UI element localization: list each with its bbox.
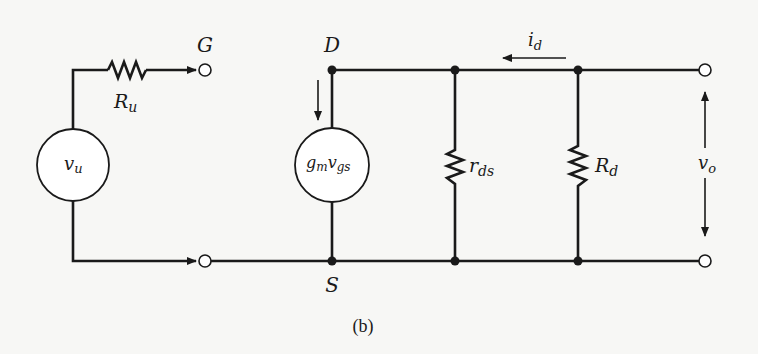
node-drain	[328, 66, 337, 75]
label-id: id	[528, 29, 542, 53]
figure-caption: (b)	[353, 316, 374, 337]
gate-terminal	[199, 64, 211, 76]
label-gate: G	[197, 33, 213, 57]
label-ru: Ru	[113, 90, 137, 115]
node-rds-bottom	[451, 257, 460, 266]
wire-rd	[570, 70, 586, 261]
node-rd-top	[574, 66, 583, 75]
source-input-terminal	[199, 255, 211, 267]
output-terminal-top	[699, 64, 711, 76]
wire-input-left-bottom	[73, 201, 196, 261]
circuit-diagram: G D S Ru vu gmvgs rds Rd id vo (b)	[0, 0, 758, 354]
resistor-ru-icon	[108, 62, 146, 78]
wire-rds	[447, 70, 463, 261]
label-drain: D	[323, 33, 340, 57]
output-terminal-bottom	[699, 255, 711, 267]
label-source: S	[325, 273, 339, 297]
label-vo: vo	[698, 152, 716, 176]
node-rds-top	[451, 66, 460, 75]
label-rds: rds	[469, 154, 494, 179]
node-rd-bottom	[574, 257, 583, 266]
output-circuit	[211, 58, 711, 267]
node-source	[328, 257, 337, 266]
labels: G D S Ru vu gmvgs rds Rd id vo (b)	[64, 29, 716, 337]
label-rd: Rd	[594, 154, 618, 179]
wire-input-left-top	[73, 70, 108, 129]
